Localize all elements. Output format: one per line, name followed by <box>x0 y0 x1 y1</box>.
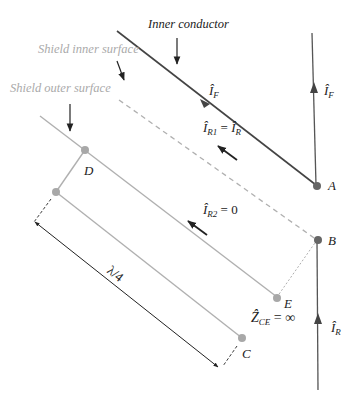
d-to-lower-line <box>56 150 85 192</box>
shield-outer-surface-label: Shield outer surface <box>10 81 111 96</box>
inner-conductor-current-arrow-icon <box>200 99 210 108</box>
current-subscript: R <box>236 127 242 137</box>
current-value: 0 <box>231 202 238 217</box>
point-b-dot <box>314 236 322 244</box>
impedance-symbol: Ẑ <box>251 310 259 325</box>
current-subscript: R <box>335 327 341 337</box>
right-conductor-upper-line <box>312 33 316 185</box>
current-if-inner-label: ÎF <box>209 83 219 100</box>
right-lower-current-arrow-icon <box>314 313 322 324</box>
equals-sign: = <box>270 310 285 325</box>
equals-sign: = <box>217 120 231 135</box>
infinity-value: ∞ <box>285 310 295 325</box>
ir1-direction-arrow-icon <box>218 146 237 160</box>
ir2-direction-arrow-icon <box>188 221 207 235</box>
lambda-quarter-dimension-arrow-icon <box>35 222 218 367</box>
current-subscript: R2 <box>207 209 217 219</box>
point-c-dot <box>238 334 246 342</box>
b-to-e-dashed-line <box>277 240 317 297</box>
dimension-extension-top <box>34 199 51 222</box>
inner-conductor-line <box>117 31 316 185</box>
point-d-dot <box>81 146 89 154</box>
point-b-label: B <box>328 233 336 249</box>
shield-inner-surface-label: Shield inner surface <box>38 42 139 57</box>
current-if-right-label: ÎF <box>324 83 334 100</box>
point-c-label: C <box>242 346 251 362</box>
lower-left-dot <box>52 188 60 196</box>
shield-inner-pointer-arrow-icon <box>117 61 124 80</box>
right-upper-current-arrow-icon <box>310 82 318 93</box>
current-ir-right-label: ÎR <box>331 320 341 337</box>
equals-sign: = <box>217 202 231 217</box>
current-ir2-label: ÎR2 = 0 <box>203 202 238 219</box>
inner-conductor-label: Inner conductor <box>148 17 229 32</box>
current-subscript: R1 <box>207 127 217 137</box>
current-subscript: F <box>328 90 334 100</box>
point-a-dot <box>313 182 321 190</box>
point-e-dot <box>273 294 281 302</box>
point-a-label: A <box>328 178 336 194</box>
current-ir1-label: ÎR1 = ÎR <box>203 120 241 137</box>
impedance-zce-label: ẐCE = ∞ <box>251 310 295 327</box>
dimension-extension-bottom <box>223 346 237 366</box>
coax-balun-diagram <box>0 0 360 407</box>
impedance-subscript: CE <box>259 317 271 327</box>
point-d-label: D <box>84 163 93 179</box>
current-subscript: F <box>213 90 219 100</box>
